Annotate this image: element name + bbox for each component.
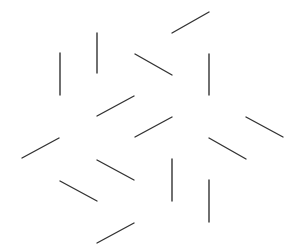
line-segment-falling [135,54,172,75]
segments-svg [0,0,299,252]
line-segment-falling [97,160,134,180]
line-segment-falling [209,138,246,159]
line-segment-rising [172,12,209,33]
line-segment-falling [60,181,97,201]
line-segment-rising [22,138,59,158]
line-segment-rising [97,223,134,243]
line-segment-falling [246,117,283,137]
line-segment-rising [97,96,134,116]
line-segment-diagram [0,0,299,252]
line-segment-rising [135,117,172,137]
